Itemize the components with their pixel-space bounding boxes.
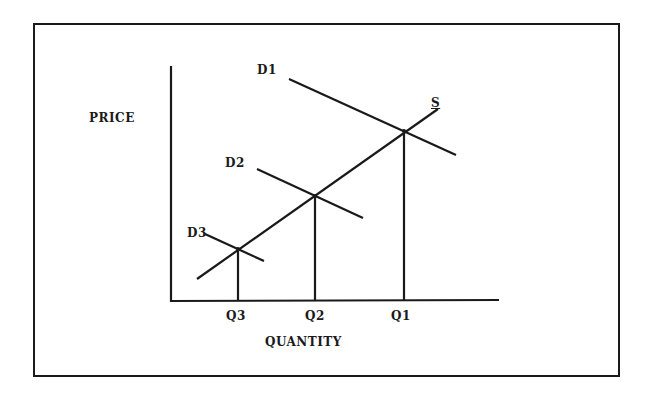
supply-curve-label: S — [431, 97, 440, 109]
equilibrium-point-3 — [236, 247, 240, 251]
x-axis — [170, 300, 499, 301]
demand-curve-d3-label: D3 — [187, 227, 207, 239]
equilibrium-point-1 — [402, 129, 406, 133]
demand-curve-d1-label: D1 — [257, 64, 277, 76]
demand-curve-d2 — [257, 169, 363, 218]
equilibrium-point-2 — [313, 194, 317, 198]
quantity-tick-q3: Q3 — [226, 310, 246, 322]
demand-curve-d2-label: D2 — [225, 157, 245, 169]
demand-curve-d1 — [289, 79, 456, 155]
quantity-tick-q1: Q1 — [391, 310, 411, 322]
supply-curve — [197, 109, 438, 279]
y-axis-label: PRICE — [89, 112, 135, 124]
quantity-tick-q2: Q2 — [305, 310, 325, 322]
x-axis-label: QUANTITY — [265, 336, 342, 348]
